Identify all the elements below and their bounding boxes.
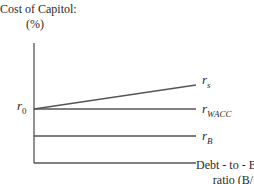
label-r-s: rs (202, 72, 211, 90)
chart-plot (0, 0, 254, 184)
origin-label-r0: r0 (17, 98, 27, 116)
x-axis-label: Debt - to - Equity ratio (B/S) (196, 158, 254, 184)
x-axis-label-line2: ratio (B/S) (196, 173, 254, 184)
line-r-s (34, 85, 196, 109)
label-r-b: rB (202, 128, 213, 146)
label-r-wacc: rWACC (202, 101, 231, 119)
x-axis-label-line1: Debt - to - Equity (196, 158, 254, 173)
